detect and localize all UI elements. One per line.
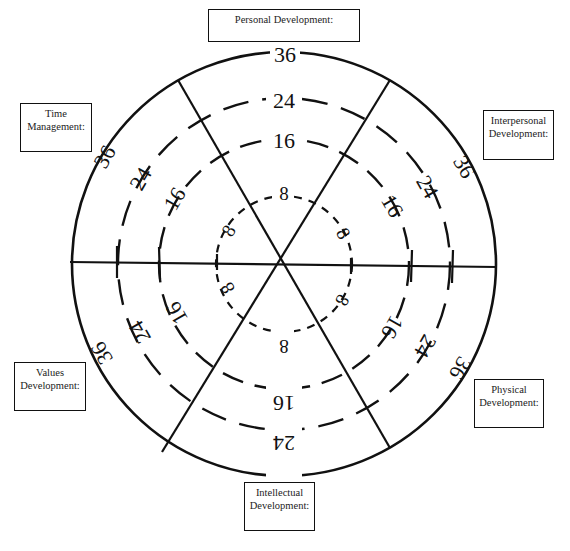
label-36-ul: 36 <box>88 141 121 173</box>
label-24-ur: 24 <box>411 171 444 203</box>
intellectual-label-line2: Development: <box>245 499 314 512</box>
physical-label-line2: Development: <box>475 396 543 409</box>
label-16-ur: 16 <box>376 190 409 222</box>
label-8-ll: 8 <box>216 279 239 298</box>
label-16-lr: 16 <box>376 311 409 343</box>
label-36-ur: 36 <box>448 151 481 183</box>
physical-label-line1: Physical <box>475 383 543 396</box>
time-label-line2: Management: <box>21 120 91 133</box>
label-36-top: 36 <box>274 42 296 67</box>
time-management-box[interactable]: Time Management: <box>20 103 92 152</box>
label-36-lr: 36 <box>444 352 477 384</box>
interpersonal-label-line1: Interpersonal <box>484 114 553 127</box>
label-8-top: 8 <box>279 183 289 204</box>
personal-development-box[interactable]: Personal Development: <box>208 9 360 42</box>
life-wheel-diagram: 36 24 16 8 36 24 16 8 36 24 16 8 36 24 1… <box>0 0 570 551</box>
label-8-lr: 8 <box>331 291 354 310</box>
values-development-box[interactable]: Values Development: <box>14 362 86 411</box>
label-16-top: 16 <box>273 128 295 153</box>
label-16-bottom: 16 <box>273 391 295 416</box>
physical-development-box[interactable]: Physical Development: <box>474 379 544 428</box>
intellectual-label-line1: Intellectual <box>245 486 314 499</box>
personal-development-label: Personal Development: <box>209 13 359 26</box>
label-8-bottom: 8 <box>279 336 289 357</box>
label-24-bottom: 24 <box>273 431 295 456</box>
label-8-ur: 8 <box>332 224 355 243</box>
interpersonal-label-line2: Development: <box>484 127 553 140</box>
values-label-line1: Values <box>15 366 85 379</box>
label-24-lr: 24 <box>409 330 442 362</box>
label-36-ll: 36 <box>85 337 118 369</box>
interpersonal-development-box[interactable]: Interpersonal Development: <box>483 110 554 160</box>
label-24-top: 24 <box>273 88 295 113</box>
label-16-ul: 16 <box>158 183 191 215</box>
time-label-line1: Time <box>21 107 91 120</box>
values-label-line2: Development: <box>15 379 85 392</box>
intellectual-development-box[interactable]: Intellectual Development: <box>244 482 315 531</box>
label-24-ul: 24 <box>124 163 157 195</box>
